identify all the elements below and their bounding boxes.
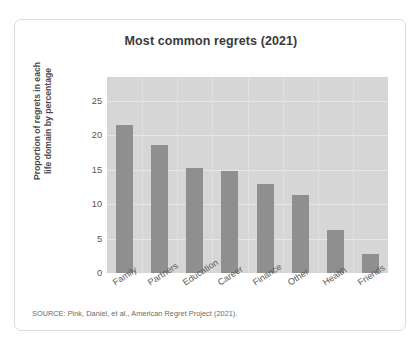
source-note: SOURCE: Pink, Daniel, et al., American R… [32, 309, 237, 318]
y-axis-tick-labels: 0510152025 [77, 77, 102, 273]
bar-family[interactable] [116, 125, 133, 273]
chart-title: Most common regrets (2021) [15, 34, 407, 48]
bar-other[interactable] [292, 195, 309, 273]
y-tick-label-5: 5 [97, 234, 102, 244]
y-tick-label-0: 0 [97, 268, 102, 278]
y-tick-label-25: 25 [92, 96, 102, 106]
chart-card: Most common regrets (2021) Proportion of… [14, 19, 406, 331]
y-tick-label-20: 20 [92, 130, 102, 140]
y-axis-title-line-2: life domain by percentage [43, 36, 54, 206]
bar-partners[interactable] [151, 145, 168, 273]
y-tick-label-10: 10 [92, 199, 102, 209]
y-axis-title-line-1: Proportion of regrets in each [32, 36, 43, 206]
bar-education[interactable] [186, 168, 203, 273]
y-axis-title: Proportion of regrets in each life domai… [32, 36, 62, 206]
bar-career[interactable] [221, 171, 238, 273]
bar-finance[interactable] [257, 184, 274, 273]
y-tick-label-15: 15 [92, 165, 102, 175]
bar-series [107, 77, 388, 273]
plot-area [107, 77, 388, 273]
